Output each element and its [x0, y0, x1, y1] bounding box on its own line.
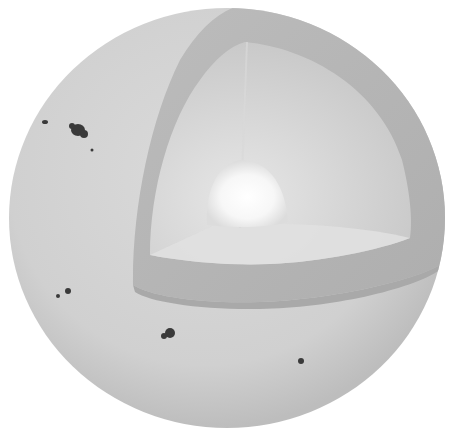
sunspot-small-2 — [91, 149, 94, 152]
sunspot-small-3 — [298, 358, 304, 364]
sun-cutaway-illustration — [0, 0, 459, 432]
sun-graphic — [0, 0, 459, 432]
sunspot-small-1 — [42, 120, 48, 124]
